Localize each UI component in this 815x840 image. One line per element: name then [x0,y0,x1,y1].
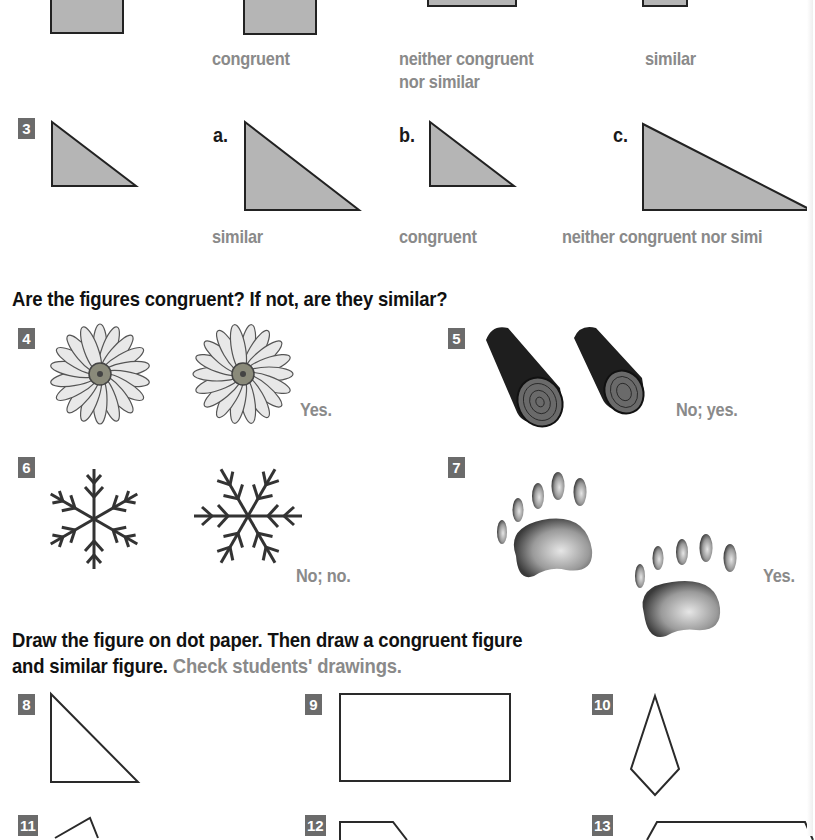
bear-paw-print-icon [632,524,746,642]
square-figure-c [642,0,688,8]
section-heading-congruent: Are the figures congruent? If not, are t… [12,286,447,312]
option-label-c: c. [613,123,628,147]
option-label-b: b. [399,123,415,147]
answer-2c: similar [645,47,696,70]
right-triangle-original [50,120,140,190]
heading-line-2-text: and similar figure. [12,654,168,677]
problem-number-badge: 10 [592,694,613,715]
snowflake-icon [196,458,300,574]
problem-number-badge: 4 [18,328,35,349]
right-triangle-a [243,120,363,214]
answer-3c: neither congruent nor simi [562,225,762,248]
problem-number-badge: 12 [305,815,326,836]
daisy-flower-icon [48,322,152,426]
answer-2b-line1: neither congruent [399,47,534,70]
problem-number-badge: 8 [18,694,35,715]
answer-3b: congruent [399,225,477,248]
heading-line-2: and similar figure. Check students' draw… [12,653,522,679]
section-heading-dot-paper: Draw the figure on dot paper. Then draw … [12,627,522,679]
right-triangle-outline [50,693,142,785]
snowflake-icon [46,464,142,574]
right-triangle-b [428,120,518,190]
answer-2b-line2: nor similar [399,70,534,93]
page-edge [807,0,813,836]
problem-number-badge: 3 [18,118,35,139]
heading-line-1: Draw the figure on dot paper. Then draw … [12,627,522,653]
quadrilateral-outline [50,816,100,840]
problem-number-badge: 13 [592,815,613,836]
answer-5: No; yes. [676,398,738,421]
right-triangle-c [641,122,815,214]
answer-4: Yes. [300,398,332,421]
wooden-log-icon [570,322,650,414]
problem-number-badge: 9 [305,694,322,715]
problem-number-badge: 11 [18,815,38,836]
square-figure-a [243,0,317,34]
daisy-flower-icon [191,322,295,426]
problem-number-badge: 7 [448,457,465,478]
answer-note: Check students' drawings. [173,654,402,677]
answer-2b: neither congruent nor similar [399,47,534,93]
pentagon-outline [339,820,419,840]
answer-3a: similar [212,225,263,248]
answer-7: Yes. [763,564,795,587]
problem-number-badge: 5 [448,328,465,349]
trapezoid-outline [645,820,815,840]
problem-number-badge: 6 [18,457,35,478]
square-figure-original [50,0,124,34]
answer-2a: congruent [212,47,290,70]
kite-outline [630,695,682,797]
bear-paw-print-icon [494,458,600,582]
rectangle-outline [339,693,512,783]
answer-6: No; no. [296,564,350,587]
option-label-a: a. [213,123,228,147]
rectangle-figure-b [427,0,517,8]
wooden-log-icon [478,322,568,428]
